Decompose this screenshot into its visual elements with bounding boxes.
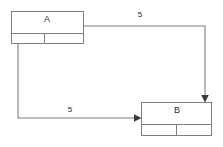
node-a-label: A [44, 14, 50, 24]
edge-a-to-b-bottom-line [18, 44, 138, 118]
diagram-svg: 5 5 A B [0, 0, 223, 147]
edge-label-top: 5 [138, 10, 143, 19]
node-b[interactable]: B [142, 103, 212, 136]
arrowhead-down-icon [201, 95, 209, 103]
edge-a-to-b-top-line [84, 26, 205, 99]
edge-a-to-b-top: 5 [84, 10, 209, 102]
node-a[interactable]: A [12, 12, 84, 44]
diagram-canvas: 5 5 A B [0, 0, 223, 147]
edge-label-bottom: 5 [68, 105, 73, 114]
arrowhead-right-icon [134, 114, 142, 122]
edge-a-to-b-bottom: 5 [18, 44, 142, 122]
node-b-label: B [174, 105, 180, 115]
